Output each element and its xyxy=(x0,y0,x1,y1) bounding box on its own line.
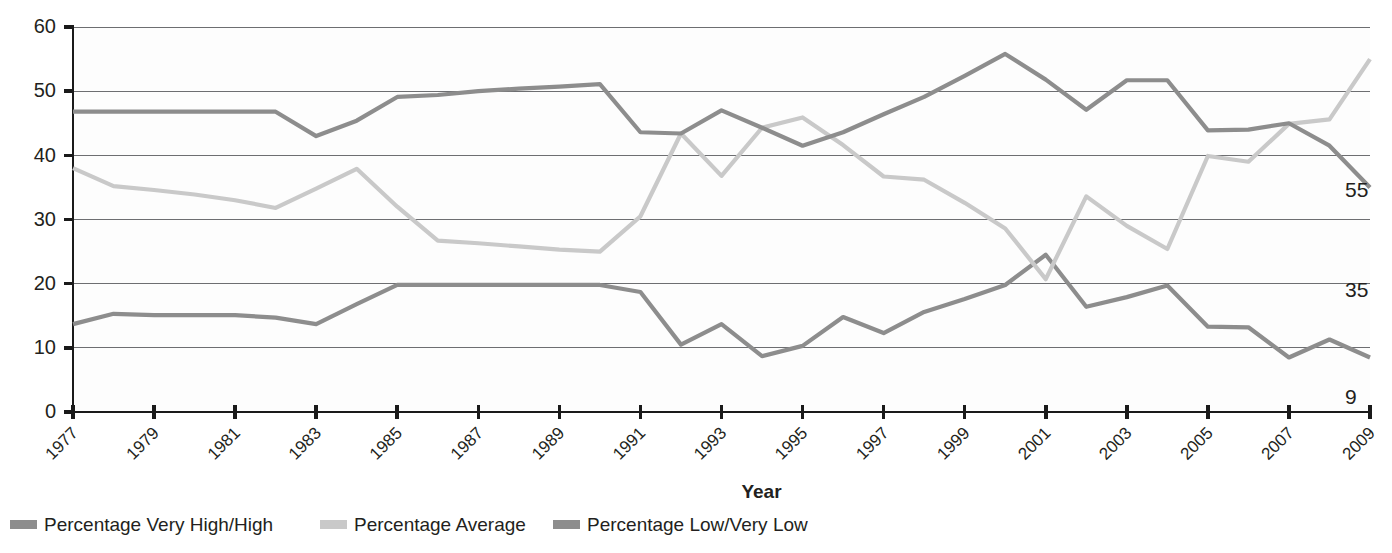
y-tick-label-20: 20 xyxy=(34,272,56,294)
y-tick-label-40: 40 xyxy=(34,144,56,166)
end-label-very-high-high: 9 xyxy=(1345,385,1357,408)
end-label-average: 35 xyxy=(1345,278,1368,301)
legend-swatch-2 xyxy=(553,520,580,529)
legend-item-0[interactable]: Percentage Very High/High xyxy=(10,514,273,535)
legend-label-0: Percentage Very High/High xyxy=(44,514,273,535)
legend-swatch-0 xyxy=(10,520,37,529)
chart-svg: 0102030405060 19771979198119831985198719… xyxy=(0,0,1392,553)
y-tick-label-50: 50 xyxy=(34,79,56,101)
y-tick-label-10: 10 xyxy=(34,336,56,358)
legend-swatch-1 xyxy=(320,520,347,529)
chart-legend: Percentage Very High/HighPercentage Aver… xyxy=(10,514,808,535)
legend-label-2: Percentage Low/Very Low xyxy=(587,514,808,535)
x-axis-title: Year xyxy=(741,481,782,502)
end-label-low-very-low: 55 xyxy=(1345,178,1368,201)
line-chart-figure: 0102030405060 19771979198119831985198719… xyxy=(0,0,1392,553)
y-tick-label-60: 60 xyxy=(34,15,56,37)
legend-label-1: Percentage Average xyxy=(354,514,526,535)
y-tick-label-0: 0 xyxy=(45,400,56,422)
legend-item-2[interactable]: Percentage Low/Very Low xyxy=(553,514,808,535)
y-tick-label-30: 30 xyxy=(34,208,56,230)
